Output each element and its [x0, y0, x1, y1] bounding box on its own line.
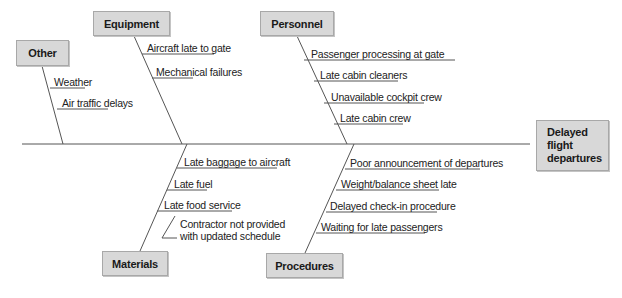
effect-box: Delayed flight departures [536, 120, 609, 171]
cause-unavailable-cockpit-crew: Unavailable cockpit crew [331, 91, 442, 103]
cause-delayed-check-in: Delayed check-in procedure [330, 200, 456, 212]
category-personnel: Personnel [260, 11, 334, 36]
cause-aircraft-late-to-gate: Aircraft late to gate [147, 42, 231, 54]
cause-air-traffic-delays: Air traffic delays [62, 97, 133, 109]
cause-mechanical-failures: Mechanical failures [156, 66, 242, 78]
cause-weight-balance-sheet: Weight/balance sheet late [341, 178, 457, 190]
fishbone-diagram: Other Equipment Personnel Materials Proc… [0, 0, 622, 298]
cause-passenger-processing: Passenger processing at gate [311, 48, 444, 60]
cause-late-cabin-cleaners: Late cabin cleaners [320, 69, 407, 81]
cause-late-baggage: Late baggage to aircraft [184, 156, 290, 168]
cause-late-cabin-crew: Late cabin crew [340, 112, 411, 124]
cause-waiting-late-passengers: Waiting for late passengers [321, 221, 442, 233]
category-equipment: Equipment [93, 11, 170, 36]
cause-late-fuel: Late fuel [174, 178, 212, 190]
cause-late-food-service: Late food service [164, 199, 241, 211]
category-other: Other [16, 40, 69, 66]
subcause-contractor-schedule: Contractor not provided with updated sch… [180, 218, 285, 242]
category-materials: Materials [102, 251, 168, 276]
category-procedures: Procedures [266, 253, 343, 278]
cause-weather: Weather [54, 76, 92, 88]
cause-poor-announcement: Poor announcement of departures [350, 157, 503, 169]
bone-procedures [305, 144, 354, 253]
